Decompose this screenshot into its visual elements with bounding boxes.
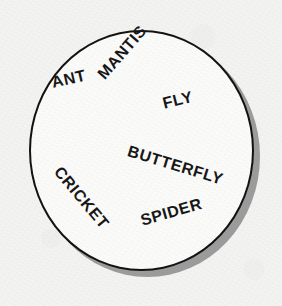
diagram-canvas: ANT MANTIS FLY BUTTERFLY CRICKET SPIDER bbox=[0, 0, 282, 306]
